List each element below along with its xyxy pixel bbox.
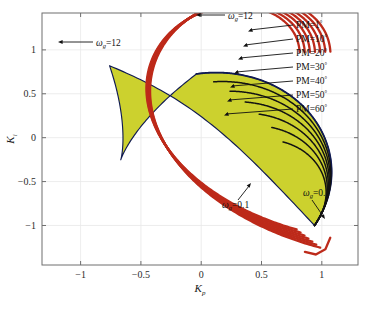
x-axis-title: Kp [194,282,206,297]
leader-pm20 [240,53,293,58]
arrowhead-pm40 [230,84,235,88]
x-tick-label: 1 [319,269,324,280]
arrowhead-pm30 [234,70,239,74]
arrowhead-wg12-top [196,13,201,17]
y-tick-label: 1 [31,44,36,55]
x-tick-label: −1 [75,269,86,280]
pm-label-30: PM=30° [296,61,328,72]
annotation-wg12-left: ωg=12 [96,38,121,49]
y-tick-label: −1 [25,220,36,231]
leader-pm60 [226,109,293,114]
annotation-wg01-right: ωg=0.1 [303,188,330,199]
arrowhead-pm10 [243,43,248,47]
y-tick-label: 0 [31,132,36,143]
pm-label-1: PM=1° [296,19,323,30]
leader-wg01-mid [238,186,249,200]
pm-label-40: PM=40° [296,75,328,86]
leader-pm10 [245,39,293,45]
y-axis-title: Ki [4,134,19,144]
arrowhead-wg01-mid [247,183,251,188]
leader-pm30 [236,67,293,72]
y-tick-label: 0.5 [24,88,37,99]
leader-pm50 [229,95,293,100]
arrowhead-wg12-left [58,40,63,44]
y-tick-label: −0.5 [18,176,36,187]
leader-pm1 [250,25,293,30]
annotation-wg12-top: ωg=12 [228,11,253,22]
pm-label-60: PM=60° [296,103,328,114]
figure-root: −1−0.500.51−1−0.500.51KpKiωg=12ωg=12ωg=0… [0,0,374,311]
arrowhead-pm60 [224,112,229,116]
leader-wg01-right [312,200,323,216]
pm-label-20: PM=20° [296,47,328,58]
arrowhead-wg01-right [321,214,325,219]
pm-label-50: PM=50° [296,89,328,100]
x-tick-label: −0.5 [132,269,150,280]
x-tick-label: 0.5 [255,269,268,280]
arrowhead-pm20 [238,56,243,60]
leader-pm40 [232,81,293,86]
arrowhead-pm1 [248,28,253,32]
annotation-wg01-mid: ωg=0.1 [222,200,249,211]
x-tick-label: 0 [199,269,204,280]
annotation-layer: −1−0.500.51−1−0.500.51KpKiωg=12ωg=12ωg=0… [0,0,374,311]
arrowhead-pm50 [227,98,232,102]
pm-label-10: PM=10° [296,33,328,44]
